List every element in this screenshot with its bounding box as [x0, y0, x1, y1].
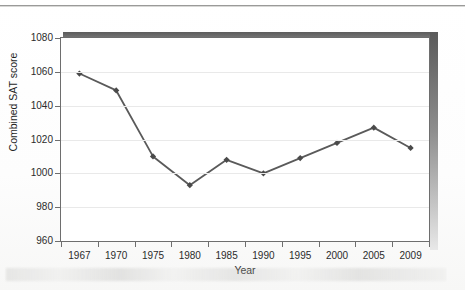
x-axis-tick-label: 2009 — [399, 250, 421, 261]
x-axis-tick — [429, 242, 430, 247]
page-text-bleed — [6, 268, 446, 281]
sat-score-line-chart: 96098010001020104010601080 Combined SAT … — [0, 12, 465, 270]
x-axis-tick — [61, 242, 62, 247]
x-axis-tick — [355, 242, 356, 247]
x-axis-tick — [392, 242, 393, 247]
x-axis-tick — [98, 242, 99, 247]
page-top-rule-shadow — [0, 6, 465, 7]
x-axis-tick — [171, 242, 172, 247]
x-axis-tick — [135, 242, 136, 247]
x-axis-tick-label: 1967 — [68, 250, 90, 261]
plot-area — [60, 37, 430, 242]
data-point-marker — [334, 140, 340, 146]
y-axis-tick-label: 980 — [7, 201, 53, 212]
x-axis-tick-label: 2005 — [363, 250, 385, 261]
gridline — [61, 207, 429, 208]
x-axis-tick — [282, 242, 283, 247]
x-axis-tick — [208, 242, 209, 247]
x-axis-tick-label: 1980 — [179, 250, 201, 261]
data-point-marker — [297, 155, 303, 161]
x-axis-tick-label: 2000 — [326, 250, 348, 261]
x-axis-tick-label: 1990 — [252, 250, 274, 261]
gridline — [61, 72, 429, 73]
x-axis-tick — [319, 242, 320, 247]
x-axis-tick-label: 1970 — [105, 250, 127, 261]
y-axis-title: Combined SAT score — [7, 27, 19, 177]
x-axis-tick — [245, 242, 246, 247]
y-axis-tick-label: 960 — [7, 235, 53, 246]
score-markers — [76, 70, 413, 188]
x-axis-tick-label: 1995 — [289, 250, 311, 261]
gridline — [61, 106, 429, 107]
plot-frame-shadow-right — [430, 32, 438, 250]
gridline — [61, 173, 429, 174]
x-axis-tick-label: 1985 — [215, 250, 237, 261]
gridline — [61, 140, 429, 141]
x-axis-tick-label: 1975 — [142, 250, 164, 261]
score-line — [79, 74, 410, 186]
